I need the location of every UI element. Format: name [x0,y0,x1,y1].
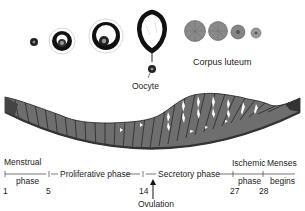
endometrium [5,93,300,151]
ovulation-arrow-icon [150,179,156,199]
day-28: 28 [259,186,269,196]
oocyte-label: Oocyte [132,81,159,91]
phase-menses-line1: Menses [267,158,297,168]
day-27: 27 [230,186,240,196]
follicle-primary [49,28,75,54]
corpus-luteum-label: Corpus luteum [193,57,252,67]
corpus-luteum-stages [185,21,262,42]
menstrual-cycle-diagram: Oocyte Corpus luteum [0,0,305,211]
phase-menses-line2: begins [270,176,295,186]
phase-secretory: Secretory phase [158,169,220,179]
phase-ischemic-line2: phase [238,176,261,186]
phase-proliferative: Proliferative phase [60,169,131,179]
follicle-primordial [30,38,38,46]
oocyte [148,65,156,78]
day-5: 5 [46,186,51,196]
follicle-mature [139,12,165,62]
ovulation-label: Ovulation [138,199,174,209]
phase-ischemic-line1: Ischemic [232,158,266,168]
day-1: 1 [3,186,8,196]
day-14: 14 [139,186,149,196]
phase-menstrual-line1: Menstrual [4,157,41,167]
follicle-secondary [89,19,123,53]
phase-menstrual-line2: phase [16,176,39,186]
